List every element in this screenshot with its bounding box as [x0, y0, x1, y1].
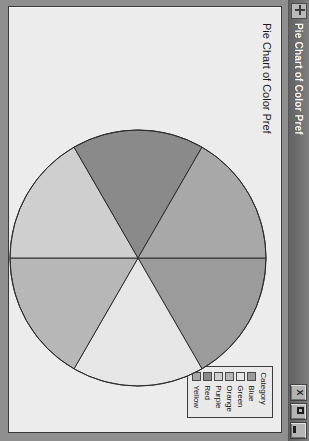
window-title: Pie Chart of Color Pref — [294, 23, 305, 384]
application-window: Pie Chart of Color Pref X Pie Chart — [0, 0, 309, 441]
close-icon: X — [292, 385, 307, 400]
close-button[interactable]: X — [291, 384, 308, 401]
window-client-area: Pie Chart of Color Pref Category BlueGre… — [0, 0, 288, 441]
move-crosshair-icon — [291, 3, 307, 19]
legend-item-label: Orange — [225, 385, 234, 412]
pie-chart-svg — [8, 127, 269, 389]
window-controls: X — [291, 384, 308, 439]
rotated-window-container: Pie Chart of Color Pref X Pie Chart — [0, 0, 309, 441]
maximize-icon — [298, 407, 305, 414]
window-titlebar[interactable]: Pie Chart of Color Pref X — [288, 0, 309, 441]
screenshot-stage: Pie Chart of Color Pref X Pie Chart — [0, 0, 309, 441]
chart-title: Pie Chart of Color Pref — [261, 23, 273, 134]
chart-panel: Pie Chart of Color Pref Category BlueGre… — [8, 6, 282, 433]
minimize-button[interactable] — [291, 422, 308, 439]
minimize-icon — [294, 426, 297, 433]
maximize-button[interactable] — [291, 403, 308, 420]
pie-chart — [8, 127, 269, 389]
